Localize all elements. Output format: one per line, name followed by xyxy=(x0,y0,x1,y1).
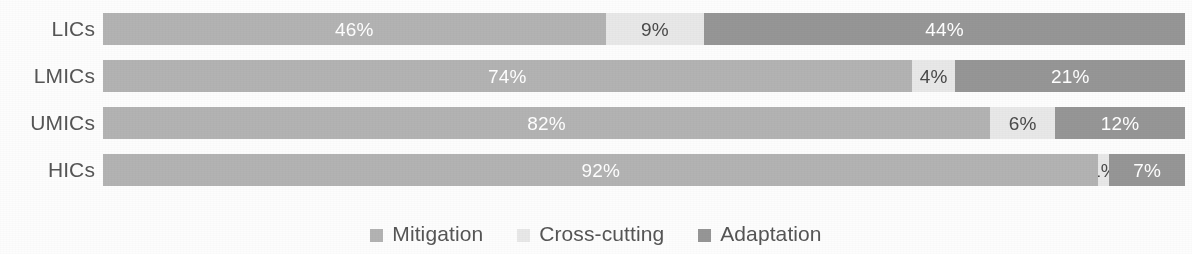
category-label: UMICs xyxy=(0,100,95,146)
category-label: HICs xyxy=(0,147,95,193)
bar-segment-adaptation[interactable]: 44% xyxy=(704,13,1185,45)
bar-segment-cross-cutting[interactable]: 6% xyxy=(990,107,1055,139)
bar-segment-cross-cutting[interactable]: 1% xyxy=(1098,154,1109,186)
legend-label: Mitigation xyxy=(392,222,483,246)
stacked-bar: 46% 9% 44% xyxy=(103,13,1185,45)
legend-label: Adaptation xyxy=(720,222,821,246)
legend-label: Cross-cutting xyxy=(539,222,664,246)
legend-swatch-icon xyxy=(698,229,711,242)
segment-value-label: 21% xyxy=(1051,67,1090,86)
segment-value-label: 6% xyxy=(1009,114,1037,133)
segment-value-label: 12% xyxy=(1101,114,1140,133)
chart-row: UMICs 82% 6% 12% xyxy=(0,100,1192,146)
chart-row: HICs 92% 1% 7% xyxy=(0,147,1192,193)
segment-value-label: 7% xyxy=(1133,161,1161,180)
segment-value-label: 82% xyxy=(527,114,566,133)
chart-row: LICs 46% 9% 44% xyxy=(0,6,1192,52)
bar-segment-cross-cutting[interactable]: 9% xyxy=(606,13,704,45)
segment-value-label: 44% xyxy=(925,20,964,39)
segment-value-label: 46% xyxy=(335,20,374,39)
stacked-bar: 74% 4% 21% xyxy=(103,60,1185,92)
stacked-bar: 92% 1% 7% xyxy=(103,154,1185,186)
chart-legend: Mitigation Cross-cutting Adaptation xyxy=(0,214,1192,254)
legend-item-mitigation[interactable]: Mitigation xyxy=(370,222,483,246)
category-label: LMICs xyxy=(0,53,95,99)
stacked-bar-chart: LICs 46% 9% 44% LMICs 74% xyxy=(0,0,1192,254)
segment-value-label: 74% xyxy=(488,67,527,86)
segment-value-label: 9% xyxy=(641,20,669,39)
legend-swatch-icon xyxy=(370,229,383,242)
segment-value-label: 1% xyxy=(1098,161,1109,180)
category-label: LICs xyxy=(0,6,95,52)
legend-item-cross-cutting[interactable]: Cross-cutting xyxy=(517,222,664,246)
segment-value-label: 92% xyxy=(581,161,620,180)
bar-segment-adaptation[interactable]: 21% xyxy=(955,60,1185,92)
stacked-bar: 82% 6% 12% xyxy=(103,107,1185,139)
bar-segment-adaptation[interactable]: 12% xyxy=(1055,107,1185,139)
bar-segment-adaptation[interactable]: 7% xyxy=(1109,154,1185,186)
bar-segment-cross-cutting[interactable]: 4% xyxy=(912,60,956,92)
bar-segment-mitigation[interactable]: 74% xyxy=(103,60,912,92)
chart-row: LMICs 74% 4% 21% xyxy=(0,53,1192,99)
bar-segment-mitigation[interactable]: 82% xyxy=(103,107,990,139)
chart-plot-area: LICs 46% 9% 44% LMICs 74% xyxy=(0,0,1192,200)
legend-swatch-icon xyxy=(517,229,530,242)
bar-segment-mitigation[interactable]: 46% xyxy=(103,13,606,45)
legend-item-adaptation[interactable]: Adaptation xyxy=(698,222,821,246)
segment-value-label: 4% xyxy=(920,67,948,86)
bar-segment-mitigation[interactable]: 92% xyxy=(103,154,1098,186)
